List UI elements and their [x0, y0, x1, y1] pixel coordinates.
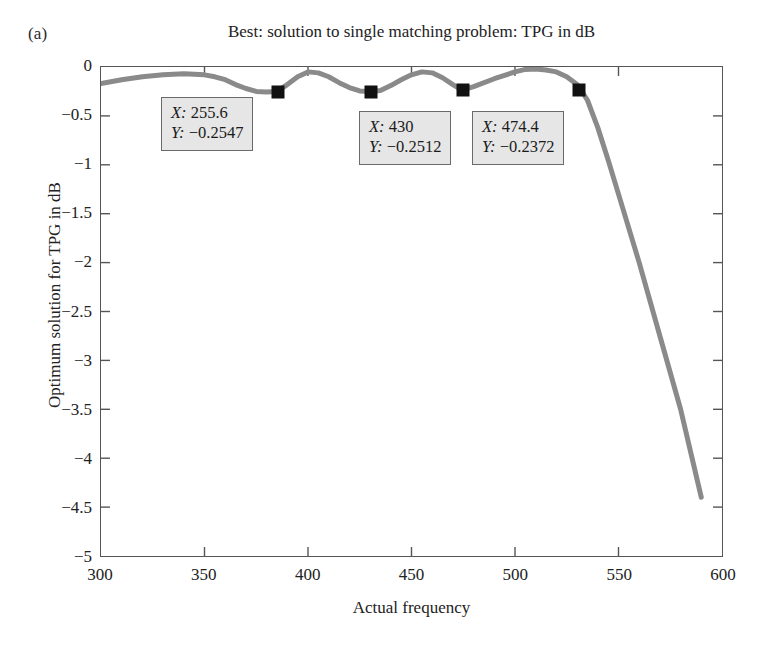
datatip-y-value: −0.2512	[383, 137, 442, 156]
x-tick-label: 300	[87, 565, 113, 585]
chart-title: Best: solution to single matching proble…	[100, 22, 723, 42]
data-marker[interactable]	[457, 84, 470, 97]
y-tick-label: −1.5	[61, 203, 92, 223]
datatip-y-value: −0.2372	[496, 137, 555, 156]
datatip-y-row: Y: −0.2512	[369, 137, 441, 157]
x-tick-label: 550	[606, 565, 632, 585]
datatip-x-row: X: 430	[369, 117, 441, 137]
x-tick-label: 350	[191, 565, 217, 585]
datatip-3[interactable]: X: 474.4Y: −0.2372	[472, 111, 564, 165]
y-tick-label: −2.5	[61, 302, 92, 322]
data-marker[interactable]	[271, 86, 284, 99]
datatip-1[interactable]: X: 255.6Y: −0.2547	[161, 97, 253, 151]
datatip-x-value: 255.6	[187, 103, 228, 122]
datatip-y-row: Y: −0.2372	[482, 137, 554, 157]
x-tick-label: 600	[710, 565, 736, 585]
datatip-x-label: X:	[369, 117, 385, 136]
x-axis-tick-labels: 300350400450500550600	[100, 565, 723, 591]
y-tick-label: −4	[74, 449, 92, 469]
x-axis-title: Actual frequency	[100, 598, 723, 618]
data-marker[interactable]	[364, 85, 377, 98]
datatip-x-label: X:	[171, 103, 187, 122]
y-axis-title: Optimum solution for TPG in dB	[45, 115, 65, 475]
y-tick-label: −3.5	[61, 400, 92, 420]
datatip-y-label: Y:	[369, 137, 383, 156]
x-tick-label: 450	[399, 565, 425, 585]
y-tick-label: −3	[74, 351, 92, 371]
y-tick-label: −0.5	[61, 105, 92, 125]
y-tick-label: −5	[74, 547, 92, 567]
datatip-y-row: Y: −0.2547	[171, 123, 243, 143]
y-tick-label: −1	[74, 154, 92, 174]
datatip-x-value: 430	[385, 117, 414, 136]
datatip-2[interactable]: X: 430Y: −0.2512	[359, 111, 451, 165]
panel-label: (a)	[28, 24, 47, 44]
datatip-x-value: 474.4	[498, 117, 539, 136]
y-tick-label: −2	[74, 252, 92, 272]
datatip-x-label: X:	[482, 117, 498, 136]
data-marker[interactable]	[572, 84, 585, 97]
datatip-y-label: Y:	[482, 137, 496, 156]
y-tick-label: −4.5	[61, 498, 92, 518]
figure-panel: (a) Best: solution to single matching pr…	[0, 0, 761, 646]
plot-area: X: 255.6Y: −0.2547X: 430Y: −0.2512X: 474…	[100, 66, 723, 557]
y-tick-label: 0	[84, 56, 93, 76]
datatip-y-value: −0.2547	[185, 123, 244, 142]
datatip-x-row: X: 255.6	[171, 103, 243, 123]
x-tick-label: 500	[503, 565, 529, 585]
x-tick-label: 400	[295, 565, 321, 585]
datatip-y-label: Y:	[171, 123, 185, 142]
datatip-x-row: X: 474.4	[482, 117, 554, 137]
